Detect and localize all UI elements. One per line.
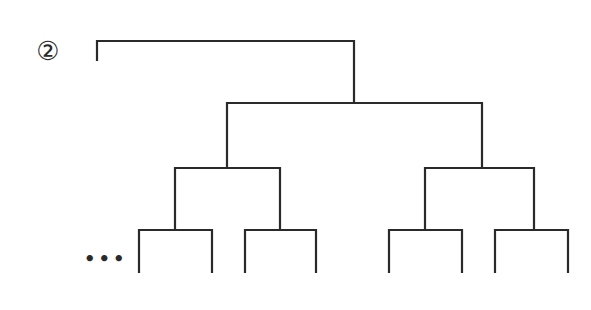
- level3-right-branch: [425, 168, 534, 230]
- level2-branch: [227, 103, 482, 168]
- leaf-pair-3: [389, 230, 462, 272]
- leaf-pair-1: [139, 230, 212, 272]
- leaf-pair-2: [245, 230, 316, 272]
- root-branch: [97, 41, 354, 103]
- level3-left-branch: [175, 168, 280, 230]
- leaf-pair-4: [495, 230, 568, 272]
- tree-diagram: [0, 0, 591, 310]
